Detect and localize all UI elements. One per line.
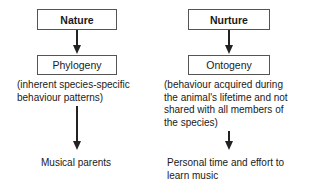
- nurture-label: Nurture: [210, 14, 248, 26]
- nature-arrow-line: [76, 30, 78, 46]
- description-line: behaviour patterns): [17, 92, 130, 105]
- phylogeny-description: (inherent species-specific behaviour pat…: [17, 79, 130, 104]
- personal-effort-outcome: Personal time and effort to learn music: [167, 157, 284, 182]
- description-line: shared with all members of: [164, 104, 288, 117]
- ontogeny-description: (behaviour acquired during the animal's …: [164, 79, 288, 129]
- outcome-line: learn music: [167, 170, 284, 183]
- nature-box: Nature: [37, 9, 117, 30]
- outcome-line: Personal time and effort to: [167, 157, 284, 170]
- ontogeny-box: Ontogeny: [188, 55, 270, 75]
- ontogeny-arrow-head-icon: [225, 141, 233, 150]
- phylogeny-label: Phylogeny: [52, 59, 101, 71]
- ontogeny-label: Ontogeny: [206, 59, 252, 71]
- nature-arrow-head-icon: [73, 45, 81, 54]
- nurture-box: Nurture: [188, 9, 270, 30]
- description-line: the animal's lifetime and not: [164, 92, 288, 105]
- phylogeny-arrow-line: [76, 106, 78, 142]
- phylogeny-box: Phylogeny: [37, 55, 117, 75]
- nature-label: Nature: [60, 14, 93, 26]
- musical-parents-outcome: Musical parents: [41, 157, 111, 170]
- description-line: (inherent species-specific: [17, 79, 130, 92]
- nurture-arrow-line: [228, 30, 230, 46]
- phylogeny-arrow-head-icon: [73, 141, 81, 150]
- description-line: (behaviour acquired during: [164, 79, 288, 92]
- nurture-arrow-head-icon: [225, 45, 233, 54]
- description-line: the species): [164, 117, 288, 130]
